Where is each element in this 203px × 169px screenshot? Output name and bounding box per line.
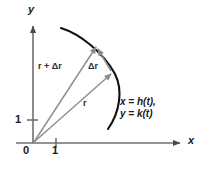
x-axis-label: x bbox=[188, 135, 194, 146]
vector-delta-r bbox=[98, 49, 111, 71]
parametric-curve-figure: y x 0 1 1 r + Δr Δr r x = h(t), y = k(t) bbox=[0, 0, 203, 169]
y-tick-label-1: 1 bbox=[15, 114, 21, 125]
vector-label-delta-r: Δr bbox=[88, 62, 98, 71]
diagram-canvas bbox=[0, 0, 203, 169]
vector-label-r: r bbox=[83, 99, 87, 108]
x-tick-label-1: 1 bbox=[52, 145, 58, 156]
parametric-curve-path bbox=[61, 28, 119, 129]
equation-y-of-t: y = k(t) bbox=[120, 108, 153, 120]
equation-x-of-t: x = h(t), bbox=[120, 96, 156, 108]
origin-label: 0 bbox=[23, 145, 29, 156]
vector-label-r-plus-delta-r: r + Δr bbox=[38, 62, 62, 71]
y-axis-label: y bbox=[28, 4, 34, 15]
